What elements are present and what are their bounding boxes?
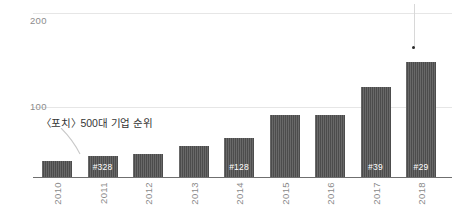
bar-chart: 200 100 #328#128#39#29 〈포치〉500대 기업 순위 20… [0, 0, 458, 222]
top-callout-dot [412, 46, 415, 49]
x-axis-tick-label: 2011 [97, 182, 108, 204]
x-axis-tick-2017: 2017 [361, 182, 391, 216]
x-axis-tick-label: 2017 [370, 182, 381, 205]
bar-rect-2018 [406, 62, 436, 178]
x-axis-tick-2010: 2010 [42, 182, 72, 216]
bar-rect-2012 [133, 154, 163, 177]
x-axis-tick-label: 2016 [325, 182, 336, 205]
annotation-endpoint-dot [80, 155, 83, 158]
x-axis-tick-2018: 2018 [406, 182, 436, 216]
bar-rect-2016 [315, 115, 345, 177]
top-callout-leader-line [414, 4, 415, 48]
x-axis-tick-2013: 2013 [179, 182, 209, 216]
bar-rect-2013 [179, 146, 209, 177]
x-axis-tick-label: 2015 [279, 182, 290, 205]
annotation-leader-line [60, 128, 90, 160]
plot-area: #328#128#39#29 [33, 0, 452, 177]
x-axis-tick-2012: 2012 [133, 182, 163, 216]
x-axis-tick-label: 2010 [52, 182, 63, 205]
x-axis-tick-label: 2018 [416, 182, 427, 205]
x-axis-tick-label: 2012 [143, 182, 154, 205]
x-axis-tick-2015: 2015 [270, 182, 300, 216]
x-axis-tick-2011: 2011 [88, 182, 118, 216]
x-axis-tick-label: 2014 [234, 182, 245, 205]
annotation-label: 〈포치〉500대 기업 순위 [41, 115, 153, 130]
bar-value-label-2018: #29 [406, 162, 436, 172]
bar-value-label-2017: #39 [361, 162, 391, 172]
x-axis-line [33, 177, 452, 178]
x-axis-tick-2016: 2016 [315, 182, 345, 216]
x-axis-tick-2014: 2014 [224, 182, 254, 216]
bar-value-label-2011: #328 [88, 162, 118, 172]
x-axis-tick-label: 2013 [188, 182, 199, 205]
bar-rect-2015 [270, 115, 300, 177]
bar-value-label-2014: #128 [224, 162, 254, 172]
bar-rect-2010 [42, 161, 72, 177]
